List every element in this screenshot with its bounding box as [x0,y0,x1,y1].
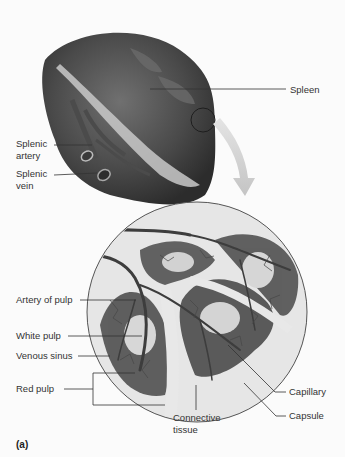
spleen-diagram: Spleen Splenic artery Splenic vein Arter… [0,0,345,457]
label-artery-of-pulp: Artery of pulp [16,294,73,306]
label-red-pulp: Red pulp [16,383,54,395]
label-white-pulp: White pulp [16,330,61,342]
label-splenic-vein-line2: vein [16,180,47,192]
label-splenic-vein: Splenic vein [16,168,47,191]
spleen-organ [42,33,215,205]
label-venous-sinus: Venous sinus [16,350,73,362]
label-connective-tissue-line1: Connective [173,412,221,424]
label-capsule: Capsule [289,410,324,422]
label-splenic-artery: Splenic artery [16,138,47,161]
panel-label: (a) [16,439,28,450]
magnified-section [87,202,307,422]
label-splenic-artery-line1: Splenic [16,138,47,150]
label-splenic-vein-line1: Splenic [16,168,47,180]
label-connective-tissue: Connective tissue [173,412,221,435]
label-splenic-artery-line2: artery [16,150,47,162]
magnify-arrow [213,118,255,196]
label-spleen: Spleen [290,84,320,96]
label-capillary: Capillary [289,386,326,398]
label-connective-tissue-line2: tissue [173,424,221,436]
